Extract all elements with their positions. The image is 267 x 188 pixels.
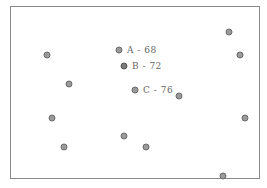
- point-label-a: A - 68: [127, 45, 157, 55]
- point-marker-c: [132, 87, 139, 94]
- point-marker: [242, 115, 249, 122]
- point-marker: [49, 115, 56, 122]
- point-label-b: B - 72: [132, 61, 162, 71]
- point-marker-b: [121, 63, 128, 70]
- point-marker: [176, 93, 183, 100]
- point-marker: [226, 29, 233, 36]
- point-marker: [143, 144, 150, 151]
- point-marker: [61, 144, 68, 151]
- point-marker: [220, 173, 227, 180]
- point-marker: [44, 52, 51, 59]
- point-marker: [237, 52, 244, 59]
- point-marker: [121, 133, 128, 140]
- point-label-c: C - 76: [143, 85, 173, 95]
- point-marker-a: [116, 47, 123, 54]
- point-marker: [66, 81, 73, 88]
